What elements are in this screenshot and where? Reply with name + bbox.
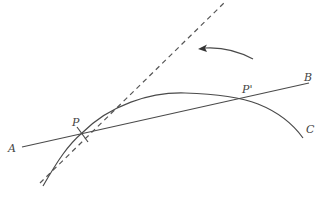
curve-c <box>43 93 303 186</box>
label-b: B <box>304 72 312 83</box>
diagram-canvas <box>0 0 322 197</box>
label-p: P <box>72 117 79 128</box>
secant-line <box>22 83 309 147</box>
label-c: C <box>306 124 314 135</box>
label-p-prime: P' <box>242 84 252 95</box>
rotation-arrow <box>205 48 253 59</box>
secant-tangent-diagram: A P P' B C <box>0 0 322 197</box>
label-a: A <box>8 143 16 154</box>
